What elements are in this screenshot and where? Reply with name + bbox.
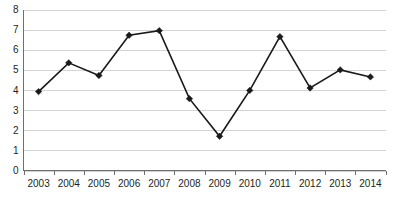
y-axis-tick-label: 1	[13, 145, 19, 156]
y-axis-tick-label: 5	[13, 64, 19, 75]
x-axis-tick-label: 2010	[239, 178, 262, 189]
y-axis-tick-label: 6	[13, 44, 19, 55]
x-axis-tick-label: 2008	[178, 178, 201, 189]
x-axis-tick-label: 2006	[118, 178, 141, 189]
x-axis-tick-label: 2009	[208, 178, 231, 189]
chart-background	[0, 0, 393, 198]
x-axis-tick-label: 2012	[299, 178, 322, 189]
y-axis-tick-label: 3	[13, 105, 19, 116]
y-axis-tick-label: 0	[13, 165, 19, 176]
x-axis-tick-label: 2005	[88, 178, 111, 189]
line-chart: 012345678 200320042005200620072008200920…	[0, 0, 393, 198]
x-axis-tick-label: 2007	[148, 178, 171, 189]
chart-canvas: 012345678 200320042005200620072008200920…	[0, 0, 393, 198]
x-axis-tick-label: 2014	[359, 178, 382, 189]
x-axis-tick-label: 2003	[27, 178, 50, 189]
y-axis-tick-labels: 012345678	[13, 4, 19, 176]
y-axis-tick-label: 8	[13, 4, 19, 15]
x-axis-tick-label: 2013	[329, 178, 352, 189]
y-axis-tick-label: 2	[13, 125, 19, 136]
y-axis-tick-label: 7	[13, 24, 19, 35]
x-axis-tick-label: 2011	[269, 178, 291, 189]
x-axis-tick-label: 2004	[58, 178, 81, 189]
y-axis-tick-label: 4	[13, 85, 19, 96]
